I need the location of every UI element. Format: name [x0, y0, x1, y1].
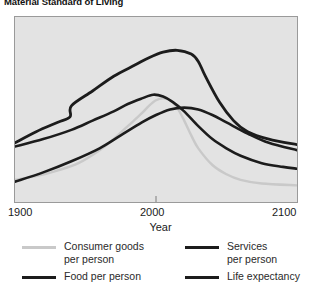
chart-title: Material Standard of Living: [4, 0, 123, 7]
legend-label-life-expectancy: Life expectancy: [227, 270, 300, 283]
x-tick-label-2000: 2000: [140, 206, 164, 218]
legend-swatch-consumer-goods: [22, 246, 56, 249]
x-axis-label: Year: [0, 221, 321, 233]
plot-svg: [15, 17, 297, 202]
x-tick-label-2100: 2100: [272, 206, 296, 218]
legend-label-consumer-goods: Consumer goods per person: [64, 240, 144, 266]
plot-area: [14, 16, 298, 203]
chart-legend: Consumer goods per person Services per p…: [14, 240, 314, 292]
x-tick-label-1900: 1900: [8, 206, 32, 218]
legend-swatch-life-expectancy: [185, 276, 219, 279]
legend-swatch-services: [185, 246, 219, 249]
series-line-consumer-goods-per-person: [15, 98, 297, 185]
legend-item-consumer-goods: Consumer goods per person: [22, 240, 144, 266]
legend-item-food: Food per person: [22, 270, 141, 283]
series-line-services-per-person: [15, 50, 297, 144]
legend-label-services: Services per person: [227, 240, 277, 266]
series-line-food-per-person: [15, 95, 297, 169]
legend-item-services: Services per person: [185, 240, 277, 266]
legend-swatch-food: [22, 276, 56, 279]
legend-label-food: Food per person: [64, 270, 141, 283]
legend-item-life-expectancy: Life expectancy: [185, 270, 300, 283]
